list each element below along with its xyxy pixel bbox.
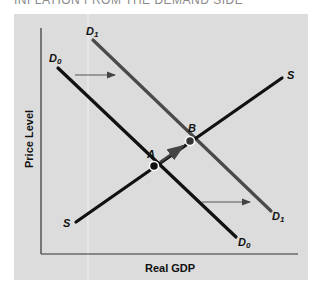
label-d1-end: D1 (272, 210, 285, 224)
supply-demand-chart: D0 D1 D1 D0 S S A B Real GDP Price Level (0, 0, 320, 298)
label-a: A (146, 148, 155, 160)
y-axis-label: Price Level (23, 110, 35, 168)
equilibrium-point-b (186, 137, 195, 146)
x-axis-label: Real GDP (145, 262, 195, 274)
label-s-end: S (287, 69, 295, 81)
label-b: B (188, 122, 196, 134)
label-s-start: S (63, 217, 71, 229)
label-d1-start: D1 (86, 25, 99, 39)
equilibrium-point-a (150, 162, 159, 171)
label-d0-start: D0 (49, 52, 62, 66)
label-d0-end: D0 (238, 236, 251, 250)
movement-arrow-a-to-b (160, 146, 183, 162)
